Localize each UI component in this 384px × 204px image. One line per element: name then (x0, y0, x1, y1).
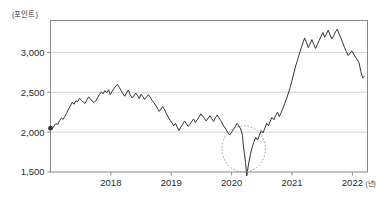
x-tick-label-2018: 2018 (100, 177, 121, 188)
y-tick-label-1500: 1,500 (21, 166, 45, 177)
x-tick-label-2019: 2019 (161, 177, 182, 188)
x-tick-label-2022: 2022 (342, 177, 363, 188)
line-chart: 1,5002,0002,5003,000 2018201920202021202… (0, 0, 384, 204)
y-tick-label-3000: 3,000 (21, 47, 45, 58)
y-tick-label-2500: 2,500 (21, 87, 45, 98)
x-tick-label-2021: 2021 (281, 177, 302, 188)
chart-container: 1,5002,0002,5003,000 2018201920202021202… (0, 0, 384, 204)
y-axis-unit-label: (포인트) (12, 9, 38, 19)
x-tick-label-2020: 2020 (221, 177, 242, 188)
chart-background (0, 0, 384, 204)
series-start-marker (48, 126, 53, 131)
x-axis-unit-label: (년) (365, 179, 375, 188)
y-tick-label-2000: 2,000 (21, 127, 45, 138)
